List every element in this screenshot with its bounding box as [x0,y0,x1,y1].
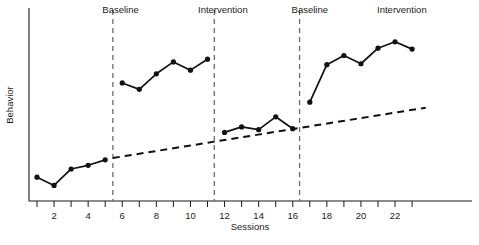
series-line [310,42,412,102]
data-point [410,47,415,52]
series-line [122,59,207,89]
series-2 [120,57,210,92]
x-tick-label: 14 [253,210,264,221]
data-point [171,59,176,64]
data-point [358,61,363,66]
x-tick-label: 18 [322,210,333,221]
trend-line [113,108,426,158]
x-tick-label: 4 [86,210,91,221]
phase-label-3: Baseline [292,4,328,15]
series-3 [222,114,295,135]
x-tick-label: 16 [287,210,298,221]
data-point [324,62,329,67]
data-point [188,68,193,73]
x-tick-label: 22 [390,210,401,221]
data-point [120,80,125,85]
x-tick-label: 2 [51,210,56,221]
data-point [239,124,244,129]
series-1 [34,157,107,188]
data-point [307,100,312,105]
data-point [205,57,210,62]
chart-axes [29,8,472,201]
x-tick-label: 6 [120,210,125,221]
phase-labels: BaselineInterventionBaselineIntervention [102,4,426,15]
data-point [103,157,108,162]
data-point [256,127,261,132]
data-point [137,87,142,92]
x-tick-label: 8 [154,210,159,221]
data-point [341,53,346,58]
projected-trend-line [113,108,426,158]
x-tick-label: 10 [185,210,196,221]
data-point [290,126,295,131]
x-tick-label: 20 [356,210,367,221]
y-axis-title: Behavior [4,86,15,124]
series-line [37,160,105,186]
data-point [375,46,380,51]
data-point [222,130,227,135]
x-tick-label: 12 [219,210,230,221]
x-axis-ticks [37,201,412,207]
x-axis-title: Sessions [231,221,270,232]
phase-label-4: Intervention [377,4,427,15]
data-series-group [34,39,414,188]
data-point [392,39,397,44]
data-point [34,175,39,180]
phase-label-2: Intervention [198,4,248,15]
data-point [86,163,91,168]
phase-label-1: Baseline [102,4,138,15]
single-case-design-chart: 246810121416182022 BaselineInterventionB… [0,0,479,245]
data-point [273,114,278,119]
phase-change-lines [113,10,300,201]
data-point [154,71,159,76]
data-point [69,166,74,171]
chart-container: 246810121416182022 BaselineInterventionB… [0,0,479,245]
series-4 [307,39,415,105]
x-axis-tick-labels: 246810121416182022 [51,210,400,221]
data-point [51,183,56,188]
